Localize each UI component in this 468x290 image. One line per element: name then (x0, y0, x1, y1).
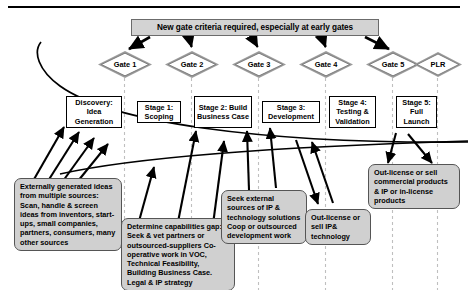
stage-1-scoping[interactable]: Stage 1: Scoping (137, 101, 181, 123)
gate-2[interactable]: Gate 2 (166, 52, 218, 78)
gate-3-label: Gate 3 (233, 52, 285, 78)
gate-plr-label: PLR (412, 52, 464, 78)
callout-out-license-commercial-text: Out-license or sell commercial products … (374, 168, 448, 205)
callout-seek-external-sources[interactable]: Seek external sources of IP & technology… (221, 190, 307, 244)
banner-new-gate-criteria: New gate criteria required, especially a… (131, 19, 379, 36)
stage-4-testing-validation[interactable]: Stage 4: Testing & Validation (329, 96, 376, 128)
gate-4[interactable]: Gate 4 (300, 52, 352, 78)
idea-inflow-arrows (33, 127, 108, 181)
callout-out-license-commercial[interactable]: Out-license or sell commercial products … (368, 164, 460, 209)
stage-3-development[interactable]: Stage 3: Development (262, 101, 320, 123)
stage-1-label: Stage 1: Scoping (140, 103, 178, 121)
gate-1[interactable]: Gate 1 (99, 52, 151, 78)
gate-4-label: Gate 4 (300, 52, 352, 78)
capability-arrows (136, 131, 224, 232)
callout-out-license-ip[interactable]: Out-license or sell IP& technology (305, 209, 371, 245)
stage-3-label: Stage 3: Development (265, 103, 317, 121)
callout-seek-external-sources-text: Seek external sources of IP & technology… (227, 194, 300, 240)
stage-5-full-launch[interactable]: Stage 5: Full Launch (396, 96, 437, 128)
gate-3[interactable]: Gate 3 (233, 52, 285, 78)
callout-externally-generated-ideas[interactable]: Externally generated ideas from multiple… (14, 178, 122, 251)
commercial-arrows (388, 133, 432, 163)
callout-out-license-ip-text: Out-license or sell IP& technology (311, 213, 360, 241)
callout-determine-capabilities[interactable]: Determine capabilities gap: Seek & vet p… (121, 218, 235, 290)
external-source-arrows (247, 128, 276, 190)
stage-discovery-label: Discovery: Idea Generation (69, 98, 119, 126)
stage-2-label: Stage 2: Build Business Case (197, 103, 249, 121)
stage-4-label: Stage 4: Testing & Validation (332, 98, 373, 126)
stage-discovery[interactable]: Discovery: Idea Generation (66, 96, 122, 128)
gate-plr[interactable]: PLR (412, 52, 464, 78)
gate-1-label: Gate 1 (99, 52, 151, 78)
callout-determine-capabilities-text: Determine capabilities gap: Seek & vet p… (127, 222, 222, 287)
callout-externally-generated-ideas-text: Externally generated ideas from multiple… (20, 182, 115, 247)
banner-to-gate-arrows (129, 37, 389, 49)
stage-2-business-case[interactable]: Stage 2: Build Business Case (194, 96, 252, 128)
gate-2-label: Gate 2 (166, 52, 218, 78)
diagram-canvas: New gate criteria required, especially a… (0, 0, 468, 290)
stage-5-label: Stage 5: Full Launch (399, 98, 434, 126)
